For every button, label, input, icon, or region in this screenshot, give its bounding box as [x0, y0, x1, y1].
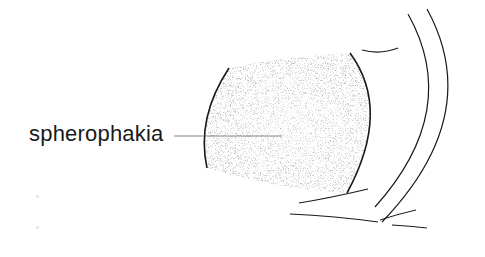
scan-speck: [36, 226, 39, 229]
angle-line: [380, 210, 416, 220]
sclera-lower-line: [392, 225, 427, 228]
spherophakia-label: spherophakia: [29, 121, 164, 147]
cornea-outer-arc: [382, 9, 448, 222]
cornea-inner-arc: [375, 14, 429, 207]
ciliary-line: [290, 214, 378, 222]
scan-speck: [36, 195, 39, 198]
iris-upper-line: [362, 48, 398, 52]
figure-canvas: spherophakia: [0, 0, 485, 257]
lens-stipple: [190, 45, 400, 205]
